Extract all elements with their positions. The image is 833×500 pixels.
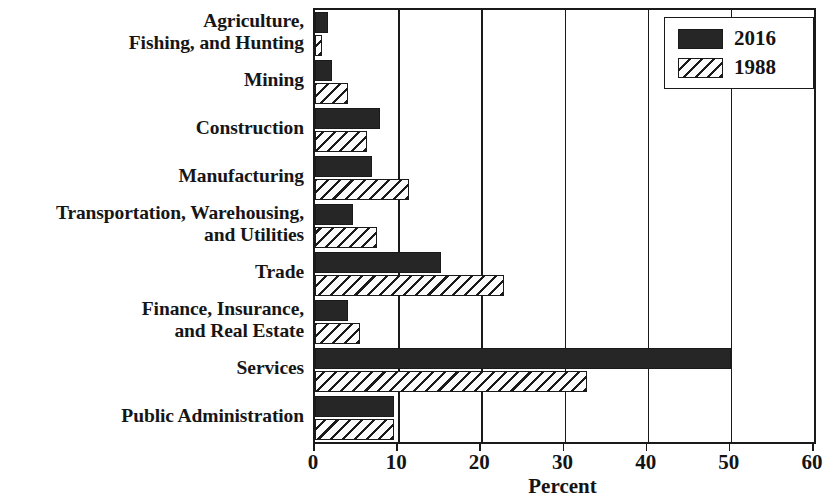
legend-label-2016: 2016 — [734, 28, 776, 49]
bar-2016 — [315, 156, 372, 177]
y-axis-label: Services — [237, 357, 304, 379]
y-axis-label: Construction — [196, 117, 304, 139]
x-axis-tick-label: 40 — [635, 449, 656, 475]
x-axis-tick-label: 60 — [802, 449, 823, 475]
bar-2016 — [315, 204, 353, 225]
bar-chart: Agriculture, Fishing, and HuntingMiningC… — [0, 0, 833, 500]
bar-2016 — [315, 60, 332, 81]
y-axis-label: Manufacturing — [179, 165, 304, 187]
x-axis-title: Percent — [313, 474, 812, 499]
bar-1988 — [315, 227, 377, 248]
x-axis-tick-label: 20 — [469, 449, 490, 475]
bar-group — [315, 346, 814, 394]
bar-group — [315, 250, 814, 298]
x-axis-tick-labels: 0102030405060 — [313, 449, 812, 477]
bar-1988 — [315, 83, 348, 104]
solid-black-swatch-icon — [678, 29, 723, 49]
bar-1988 — [315, 371, 587, 392]
legend-entry-2016: 2016 — [665, 24, 813, 53]
y-axis-category-labels: Agriculture, Fishing, and HuntingMiningC… — [0, 0, 308, 440]
y-axis-label: Mining — [244, 69, 304, 91]
y-axis-label: Transportation, Warehousing, and Utiliti… — [56, 202, 304, 246]
legend-label-1988: 1988 — [734, 57, 776, 78]
bar-group — [315, 154, 814, 202]
bar-1988 — [315, 131, 367, 152]
y-axis-label: Trade — [255, 261, 304, 283]
bar-1988 — [315, 35, 322, 56]
bar-1988 — [315, 179, 409, 200]
bar-2016 — [315, 396, 394, 417]
chart-legend: 2016 1988 — [664, 17, 814, 89]
hatched-swatch-icon — [678, 58, 723, 78]
bar-2016 — [315, 12, 328, 33]
x-axis-tick-label: 0 — [308, 449, 319, 475]
x-axis-tick-label: 10 — [386, 449, 407, 475]
bar-group — [315, 106, 814, 154]
y-axis-label: Public Administration — [121, 405, 304, 427]
bar-2016 — [315, 108, 380, 129]
bar-1988 — [315, 323, 360, 344]
bar-1988 — [315, 419, 394, 440]
x-axis-tick-label: 30 — [552, 449, 573, 475]
bar-2016 — [315, 252, 441, 273]
x-axis-tick-label: 50 — [718, 449, 739, 475]
bar-1988 — [315, 275, 504, 296]
bar-group — [315, 394, 814, 442]
bar-group — [315, 298, 814, 346]
y-axis-label: Finance, Insurance, and Real Estate — [142, 298, 304, 342]
y-axis-label: Agriculture, Fishing, and Hunting — [129, 10, 304, 54]
bar-2016 — [315, 348, 731, 369]
bar-group — [315, 202, 814, 250]
legend-entry-1988: 1988 — [665, 53, 813, 82]
bar-2016 — [315, 300, 348, 321]
